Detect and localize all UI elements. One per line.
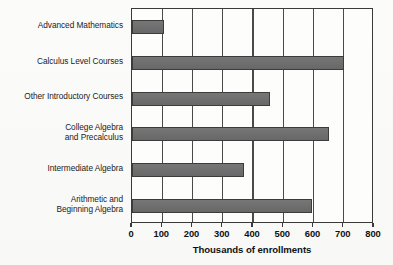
tick-mark-700 [342, 223, 343, 227]
tick-mark-400 [251, 223, 252, 227]
tick-mark-0 [130, 223, 131, 227]
category-label: Other Introductory Courses [0, 91, 127, 101]
bar [132, 92, 270, 106]
x-tick-label-800: 800 [353, 228, 393, 239]
category-axis-labels: Advanced MathematicsCalculus Level Cours… [0, 8, 127, 223]
plot-area [131, 8, 373, 223]
category-label: Arithmetic and Beginning Algebra [0, 194, 127, 214]
x-axis-title: Thousands of enrollments [131, 244, 373, 255]
bar-chart-figure: Advanced MathematicsCalculus Level Cours… [0, 0, 393, 265]
bar [132, 199, 312, 213]
category-label: Intermediate Algebra [0, 163, 127, 173]
gridline-300 [222, 9, 223, 222]
gridline-400 [252, 9, 253, 222]
category-label: Calculus Level Courses [0, 56, 127, 66]
gridline-700 [343, 9, 344, 222]
bar [132, 127, 329, 141]
gridline-200 [192, 9, 193, 222]
tick-mark-800 [372, 223, 373, 227]
tick-mark-200 [191, 223, 192, 227]
tick-mark-100 [161, 223, 162, 227]
category-label: Advanced Mathematics [0, 20, 127, 30]
gridline-500 [283, 9, 284, 222]
gridline-600 [313, 9, 314, 222]
tick-mark-300 [221, 223, 222, 227]
category-label: College Algebra and Precalculus [0, 122, 127, 142]
bar [132, 56, 344, 70]
tick-mark-600 [312, 223, 313, 227]
bar [132, 163, 244, 177]
gridline-100 [162, 9, 163, 222]
bar [132, 20, 164, 34]
tick-mark-500 [282, 223, 283, 227]
